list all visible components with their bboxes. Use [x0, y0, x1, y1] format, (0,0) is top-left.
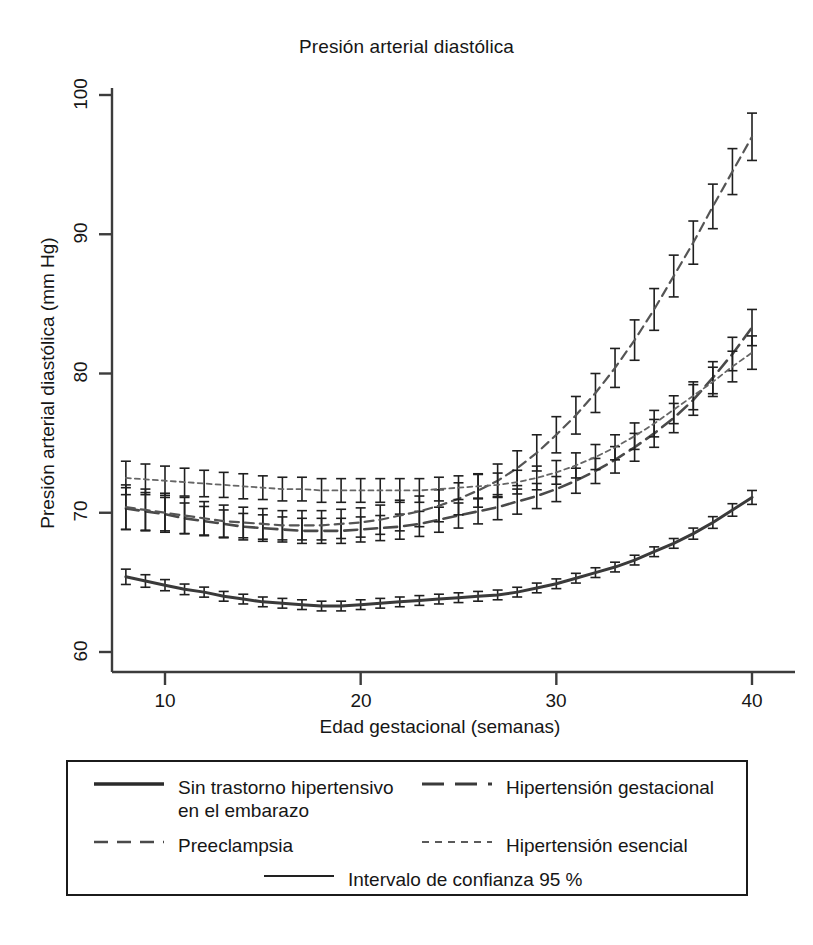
legend: Sin trastorno hipertensivo en el embaraz…	[66, 760, 748, 896]
legend-entry-hipertension-gestacional: Hipertensión gestacional	[420, 776, 740, 799]
figure-panel: Presión arterial diastólica Presión arte…	[0, 0, 813, 945]
legend-key-solid-thin-icon	[262, 870, 336, 890]
legend-label-preeclampsia: Preeclampsia	[178, 834, 293, 857]
plot-area	[0, 0, 813, 760]
legend-key-solid-icon	[92, 778, 166, 798]
legend-key-dashed-short-icon	[420, 836, 494, 856]
legend-label-hipertension-gestacional: Hipertensión gestacional	[506, 776, 714, 799]
legend-label-sin-trastorno: Sin trastorno hipertensivo en el embaraz…	[178, 776, 393, 822]
legend-key-dashed-med-icon	[92, 836, 166, 856]
legend-label-hipertension-esencial: Hipertensión esencial	[506, 834, 688, 857]
legend-entry-preeclampsia: Preeclampsia	[92, 834, 422, 857]
legend-label-intervalo-confianza: Intervalo de confianza 95 %	[348, 868, 583, 891]
legend-key-dashed-long-icon	[420, 778, 494, 798]
legend-entry-sin-trastorno: Sin trastorno hipertensivo en el embaraz…	[92, 776, 422, 822]
legend-entry-hipertension-esencial: Hipertensión esencial	[420, 834, 740, 857]
legend-entry-intervalo-confianza: Intervalo de confianza 95 %	[262, 868, 722, 891]
